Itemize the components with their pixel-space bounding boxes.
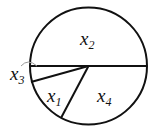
label-x4-sub: 4: [105, 95, 111, 109]
label-x3: x3: [10, 64, 24, 86]
label-x2-sub: 2: [88, 38, 94, 52]
label-x4: x4: [97, 86, 111, 108]
radius-to-bottom: [61, 66, 89, 118]
label-x1-sub: 1: [55, 95, 61, 109]
label-x1: x1: [47, 86, 61, 108]
label-x2: x2: [80, 29, 94, 51]
radius-to-left-lower: [31, 66, 89, 82]
label-x3-sub: 3: [18, 73, 24, 87]
